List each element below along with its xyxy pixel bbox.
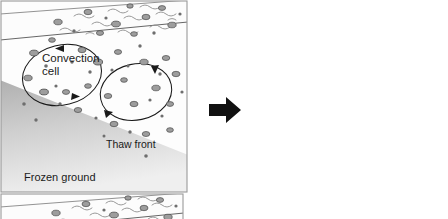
- label-convection-cell-line2: cell: [42, 65, 59, 77]
- permafrost-convection-figure: Convection cell Thaw front Frozen ground: [0, 0, 448, 219]
- panel-initial-svg: Convection cell Thaw front Frozen ground: [0, 0, 188, 193]
- label-convection-cell-line1: Convection: [42, 52, 100, 64]
- panel-initial-state: Convection cell Thaw front Frozen ground: [0, 0, 188, 193]
- label-thaw-front: Thaw front: [106, 138, 156, 150]
- panel-evolved-svg: [0, 193, 184, 219]
- right-arrow-icon: [209, 97, 241, 123]
- panel-evolved-state: [0, 193, 184, 219]
- transition-arrow: [209, 97, 241, 123]
- label-frozen-ground: Frozen ground: [24, 171, 96, 183]
